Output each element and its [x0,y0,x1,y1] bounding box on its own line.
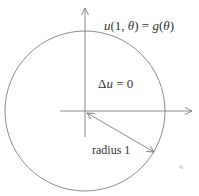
smudge-mark [178,164,184,169]
radius-label: radius 1 [92,143,130,157]
laplace-equation-label: Δu = 0 [98,76,133,91]
unit-disk-diagram: u(1, θ) = g(θ) Δu = 0 radius 1 [0,0,199,196]
boundary-condition-label: u(1, θ) = g(θ) [104,18,174,33]
